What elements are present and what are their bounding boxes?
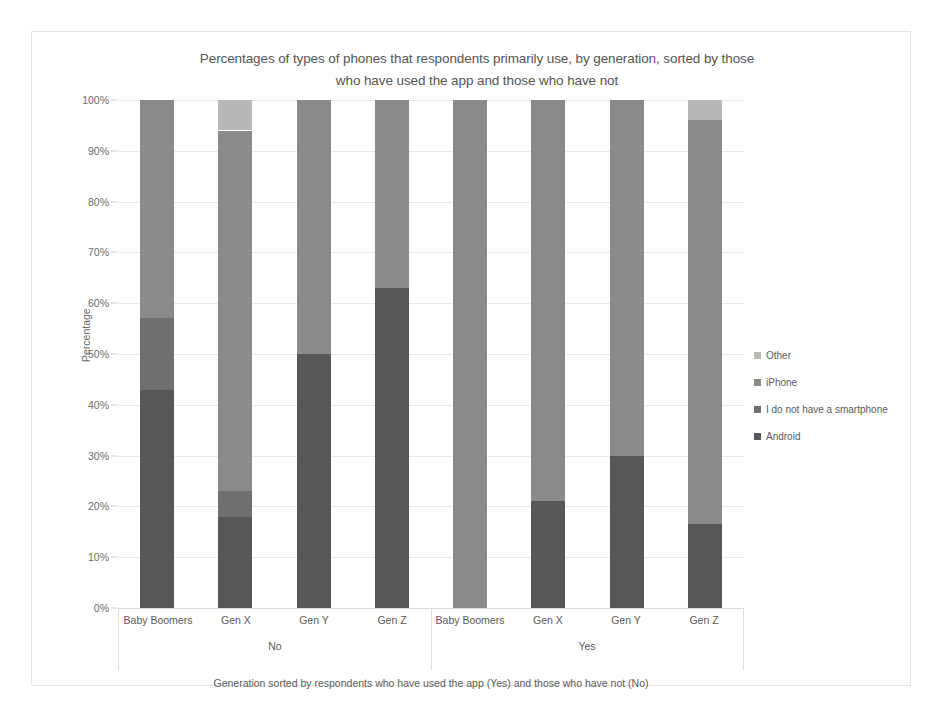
bar-slot	[509, 100, 587, 608]
bar-segment[interactable]	[218, 131, 252, 492]
bar-slot	[431, 100, 509, 608]
y-axis-tick-mark	[111, 557, 117, 558]
bar-slot	[353, 100, 431, 608]
bar-series-container	[118, 100, 744, 608]
legend-item[interactable]: iPhone	[754, 369, 914, 396]
bar-segment[interactable]	[297, 354, 331, 608]
plot-area: 0%10%20%30%40%50%60%70%80%90%100%	[118, 100, 744, 608]
bar-segment[interactable]	[218, 517, 252, 608]
y-axis-tick-mark	[111, 303, 117, 304]
y-axis-tick-label: 30%	[88, 450, 109, 462]
x-axis-tick-label: Baby Boomers	[431, 614, 509, 626]
x-axis-label-band: Baby BoomersGen XGen YGen ZBaby BoomersG…	[118, 608, 744, 670]
x-axis-group-label: Yes	[431, 640, 743, 652]
chart-title-line-1: Percentages of types of phones that resp…	[112, 48, 842, 70]
chart-legend: OtheriPhoneI do not have a smartphoneAnd…	[754, 342, 914, 450]
y-axis-tick-label: 10%	[88, 551, 109, 563]
bar-segment[interactable]	[218, 100, 252, 130]
y-axis-tick-mark	[111, 455, 117, 456]
bar-segment[interactable]	[453, 100, 487, 608]
stacked-bar[interactable]	[140, 100, 174, 608]
stacked-bar[interactable]	[218, 100, 252, 608]
bar-segment[interactable]	[610, 456, 644, 608]
y-axis-tick-mark	[111, 404, 117, 405]
stacked-bar[interactable]	[610, 100, 644, 608]
legend-item[interactable]: I do not have a smartphone	[754, 396, 914, 423]
bar-slot	[275, 100, 353, 608]
stacked-bar[interactable]	[375, 100, 409, 608]
chart-frame: Percentages of types of phones that resp…	[31, 31, 911, 686]
bar-segment[interactable]	[297, 100, 331, 354]
x-axis-tick-label: Gen Y	[587, 614, 665, 626]
legend-item-label: Android	[766, 431, 800, 442]
legend-swatch-icon	[754, 406, 761, 413]
bar-segment[interactable]	[688, 524, 722, 608]
x-axis-tick-label: Gen Y	[275, 614, 353, 626]
x-axis-tick-label: Gen X	[509, 614, 587, 626]
chart-title-line-2: who have used the app and those who have…	[112, 70, 842, 92]
legend-item[interactable]: Other	[754, 342, 914, 369]
bar-segment[interactable]	[688, 100, 722, 120]
y-axis-tick-label: 70%	[88, 246, 109, 258]
legend-item-label: iPhone	[766, 377, 797, 388]
legend-item-label: Other	[766, 350, 791, 361]
y-axis-tick-mark	[111, 506, 117, 507]
bar-slot	[588, 100, 666, 608]
x-axis-group-label: No	[119, 640, 431, 652]
x-axis-tick-label: Baby Boomers	[119, 614, 197, 626]
legend-swatch-icon	[754, 433, 761, 440]
bar-segment[interactable]	[218, 491, 252, 516]
legend-item[interactable]: Android	[754, 423, 914, 450]
bar-segment[interactable]	[688, 120, 722, 524]
stacked-bar[interactable]	[688, 100, 722, 608]
bar-segment[interactable]	[531, 501, 565, 608]
legend-swatch-icon	[754, 379, 761, 386]
bar-slot	[118, 100, 196, 608]
y-axis-tick-label: 40%	[88, 399, 109, 411]
x-axis-title: Generation sorted by respondents who hav…	[118, 677, 744, 689]
bar-segment[interactable]	[531, 100, 565, 501]
y-axis-tick-label: 20%	[88, 500, 109, 512]
y-axis-tick-mark	[111, 201, 117, 202]
bar-segment[interactable]	[375, 288, 409, 608]
y-axis-tick-mark	[111, 608, 117, 609]
bar-segment[interactable]	[375, 100, 409, 288]
y-axis-tick-mark	[111, 354, 117, 355]
x-axis-tick-label: Gen Z	[665, 614, 743, 626]
stacked-bar[interactable]	[531, 100, 565, 608]
stacked-bar[interactable]	[297, 100, 331, 608]
stacked-bar[interactable]	[453, 100, 487, 608]
y-axis-tick-label: 60%	[88, 297, 109, 309]
y-axis-tick-label: 100%	[82, 94, 109, 106]
y-axis-tick-mark	[111, 100, 117, 101]
y-axis-tick-label: 80%	[88, 196, 109, 208]
x-axis-tick-label: Gen Z	[353, 614, 431, 626]
y-axis-tick-label: 0%	[94, 602, 109, 614]
chart-title: Percentages of types of phones that resp…	[112, 48, 842, 92]
x-axis-group-separator	[431, 608, 432, 670]
y-axis-tick-mark	[111, 252, 117, 253]
bar-segment[interactable]	[610, 100, 644, 456]
y-axis-tick-mark	[111, 150, 117, 151]
bar-slot	[196, 100, 274, 608]
legend-swatch-icon	[754, 352, 761, 359]
bar-slot	[666, 100, 744, 608]
y-axis-tick-label: 50%	[88, 348, 109, 360]
bar-segment[interactable]	[140, 390, 174, 608]
legend-item-label: I do not have a smartphone	[766, 404, 888, 415]
x-axis-tick-label: Gen X	[197, 614, 275, 626]
y-axis-tick-label: 90%	[88, 145, 109, 157]
bar-segment[interactable]	[140, 100, 174, 318]
bar-segment[interactable]	[140, 318, 174, 389]
